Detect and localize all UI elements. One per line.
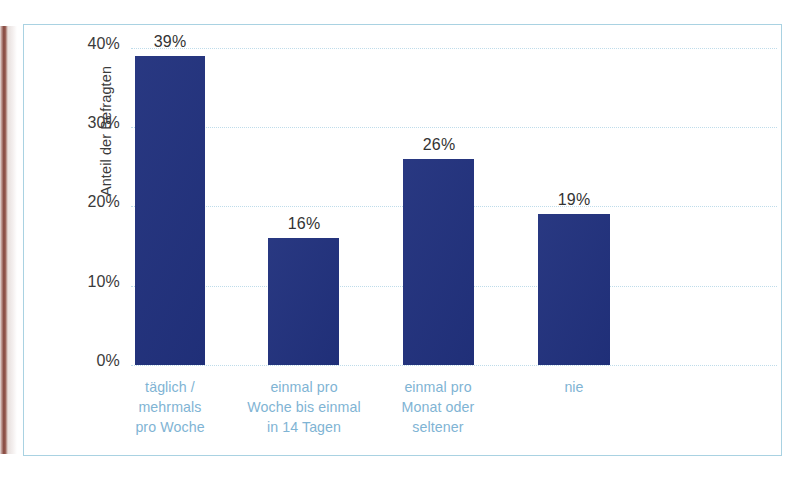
x-category-label-0-line-1: mehrmals — [100, 397, 240, 417]
x-category-label-2: einmal pro Monat oder seltener — [368, 377, 508, 437]
gridline-30 — [131, 127, 777, 128]
bar-2[interactable] — [403, 159, 474, 365]
page-gutter-artifact — [0, 26, 9, 454]
x-category-label-0: täglich / mehrmals pro Woche — [100, 377, 240, 437]
gridline-0 — [131, 365, 777, 366]
bar-value-label-2: 26% — [389, 136, 489, 154]
x-category-label-1-line-0: einmal pro — [224, 377, 384, 397]
x-category-label-2-line-1: Monat oder — [368, 397, 508, 417]
bar-value-label-0: 39% — [120, 33, 220, 51]
x-category-label-3-line-0: nie — [514, 377, 634, 397]
x-category-label-1-line-2: in 14 Tagen — [224, 417, 384, 437]
y-tick-label-20: 20% — [54, 193, 120, 211]
y-tick-label-0: 0% — [54, 352, 120, 370]
x-category-label-1: einmal pro Woche bis einmal in 14 Tagen — [224, 377, 384, 437]
x-category-label-2-line-2: seltener — [368, 417, 508, 437]
bar-0[interactable] — [135, 56, 205, 365]
bar-value-label-3: 19% — [524, 191, 624, 209]
bar-1[interactable] — [268, 238, 339, 365]
chart-frame: Anteil der Befragten 40% 30% 20% 10% 0% … — [23, 24, 782, 456]
chart-page: Anteil der Befragten 40% 30% 20% 10% 0% … — [0, 0, 797, 479]
plot-area: Anteil der Befragten 40% 30% 20% 10% 0% … — [24, 25, 783, 457]
y-tick-label-10: 10% — [54, 273, 120, 291]
x-category-label-2-line-0: einmal pro — [368, 377, 508, 397]
x-category-label-1-line-1: Woche bis einmal — [224, 397, 384, 417]
y-tick-label-40: 40% — [54, 35, 120, 53]
gridline-40 — [131, 48, 777, 49]
y-tick-label-30: 30% — [54, 114, 120, 132]
x-category-label-3: nie — [514, 377, 634, 397]
bar-3[interactable] — [538, 214, 610, 365]
x-category-label-0-line-0: täglich / — [100, 377, 240, 397]
x-category-label-0-line-2: pro Woche — [100, 417, 240, 437]
bar-value-label-1: 16% — [254, 215, 354, 233]
